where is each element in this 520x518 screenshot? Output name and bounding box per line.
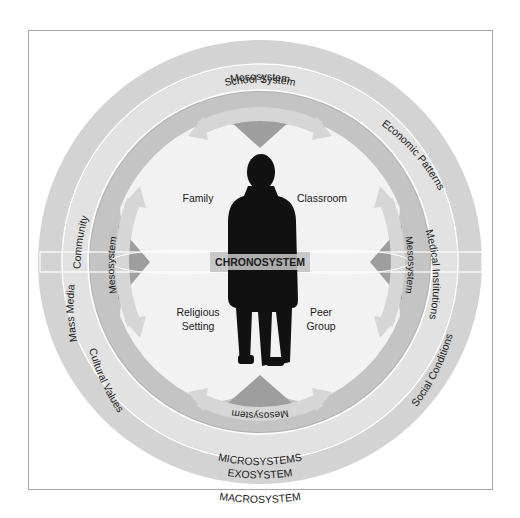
- label-group: Group: [306, 320, 335, 332]
- label-religious: Religious: [176, 306, 219, 318]
- label-classroom: Classroom: [297, 192, 347, 204]
- label-setting: Setting: [182, 320, 215, 332]
- label-family: Family: [183, 192, 215, 204]
- ecological-systems-diagram: School System Mesosystem Economic Patter…: [0, 0, 520, 518]
- label-chronosystem: CHRONOSYSTEM: [215, 256, 305, 268]
- label-macrosystem: MACROSYSTEM: [219, 490, 302, 505]
- label-peer: Peer: [310, 306, 333, 318]
